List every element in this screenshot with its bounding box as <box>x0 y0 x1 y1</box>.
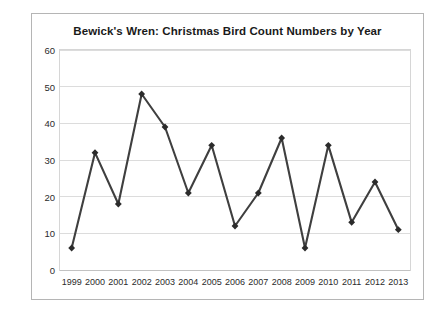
x-tick-label: 2011 <box>342 277 361 287</box>
y-tick-label: 40 <box>44 118 55 129</box>
x-tick-label: 2005 <box>202 277 222 287</box>
y-tick-label: 60 <box>44 45 55 56</box>
y-tick-label: 50 <box>44 81 55 92</box>
x-tick-label: 2003 <box>155 277 175 287</box>
data-point-marker <box>208 142 215 149</box>
x-tick-label: 1999 <box>62 277 82 287</box>
x-tick-label: 2000 <box>85 277 105 287</box>
x-tick-label: 2009 <box>295 277 315 287</box>
y-tick-label: 10 <box>44 228 55 239</box>
x-tick-label: 2001 <box>108 277 128 287</box>
data-point-marker <box>92 149 99 156</box>
chart-title: Bewick's Wren: Christmas Bird Count Numb… <box>32 25 423 37</box>
x-tick-label: 2006 <box>225 277 245 287</box>
line-series-bewicks-wren <box>60 50 410 270</box>
x-tick-label: 2008 <box>272 277 292 287</box>
x-tick-label: 2002 <box>132 277 152 287</box>
x-tick-label: 2013 <box>388 277 408 287</box>
data-point-marker <box>395 226 402 233</box>
data-point-marker <box>278 135 285 142</box>
data-point-marker <box>302 245 309 252</box>
plot-area: 0102030405060 19992000200120022003200420… <box>59 49 411 271</box>
y-tick-label: 30 <box>44 155 55 166</box>
data-point-marker <box>325 142 332 149</box>
y-tick-label: 0 <box>50 265 55 276</box>
x-tick-label: 2004 <box>178 277 198 287</box>
y-tick-label: 20 <box>44 191 55 202</box>
x-tick-label: 2012 <box>365 277 385 287</box>
chart-frame: Bewick's Wren: Christmas Bird Count Numb… <box>31 13 424 300</box>
data-point-marker <box>115 201 122 208</box>
data-point-marker <box>185 190 192 197</box>
x-tick-label: 2007 <box>248 277 268 287</box>
data-point-marker <box>68 245 75 252</box>
x-tick-label: 2010 <box>318 277 338 287</box>
